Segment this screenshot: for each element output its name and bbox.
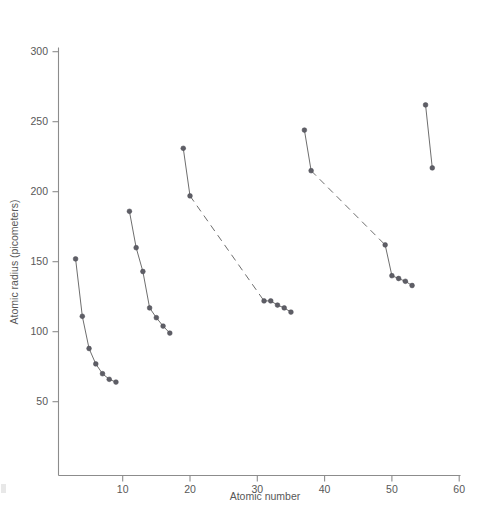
y-tick-label: 200 xyxy=(30,185,48,197)
data-point-marker xyxy=(423,103,428,108)
data-point-marker xyxy=(275,303,280,308)
series-group xyxy=(73,257,118,385)
data-point-marker xyxy=(93,362,98,367)
series-group xyxy=(423,103,435,171)
data-point-marker xyxy=(282,306,287,311)
data-point-marker xyxy=(87,346,92,351)
x-tick-label: 10 xyxy=(117,483,129,495)
y-axis-title: Atomic radius (picometers) xyxy=(8,200,20,325)
series-segment xyxy=(136,248,143,272)
data-point-marker xyxy=(262,299,267,304)
data-point-marker xyxy=(167,331,172,336)
data-point-marker xyxy=(100,371,105,376)
data-point-marker xyxy=(383,243,388,248)
data-series-layer xyxy=(73,103,434,385)
x-tick-label: 20 xyxy=(184,483,196,495)
data-point-marker xyxy=(396,276,401,281)
data-point-marker xyxy=(154,315,159,320)
data-point-marker xyxy=(309,168,314,173)
y-tick-label: 150 xyxy=(30,255,48,267)
series-group xyxy=(302,128,414,288)
series-segment xyxy=(426,105,433,168)
page-edge-artifact xyxy=(1,484,6,493)
atomic-radius-chart: 50100150200250300 102030405060 Atomic nu… xyxy=(0,0,479,517)
data-point-marker xyxy=(127,209,132,214)
x-tick-label: 60 xyxy=(453,483,465,495)
y-tick-label: 100 xyxy=(30,325,48,337)
series-segment xyxy=(143,272,150,308)
data-point-marker xyxy=(410,283,415,288)
series-segment xyxy=(76,259,83,316)
y-tick-label: 300 xyxy=(30,45,48,57)
data-point-marker xyxy=(302,128,307,133)
series-segment xyxy=(304,130,311,171)
data-point-marker xyxy=(289,310,294,315)
data-point-marker xyxy=(161,324,166,329)
data-point-marker xyxy=(268,299,273,304)
series-group xyxy=(127,209,172,336)
x-tick-label: 40 xyxy=(319,483,331,495)
data-point-marker xyxy=(403,279,408,284)
series-segment xyxy=(183,148,190,196)
x-tick-label: 50 xyxy=(386,483,398,495)
series-segment xyxy=(385,245,392,276)
axes-group xyxy=(59,48,461,476)
series-dashed-segment xyxy=(311,171,385,245)
chart-svg: 50100150200250300 102030405060 Atomic nu… xyxy=(0,0,479,517)
data-point-marker xyxy=(430,166,435,171)
series-segment xyxy=(129,211,136,247)
data-point-marker xyxy=(140,269,145,274)
data-point-marker xyxy=(181,146,186,151)
data-point-marker xyxy=(147,306,152,311)
data-point-marker xyxy=(114,380,119,385)
series-segment xyxy=(82,316,89,348)
data-point-marker xyxy=(80,314,85,319)
y-tick-label: 250 xyxy=(30,115,48,127)
y-tick-label: 50 xyxy=(36,395,48,407)
data-point-marker xyxy=(188,194,193,199)
data-point-marker xyxy=(390,273,395,278)
series-dashed-segment xyxy=(190,196,264,301)
series-group xyxy=(181,146,293,315)
data-point-marker xyxy=(73,257,78,262)
x-axis-title: Atomic number xyxy=(230,490,301,502)
data-point-marker xyxy=(107,377,112,382)
y-axis-ticks: 50100150200250300 xyxy=(30,45,58,407)
data-point-marker xyxy=(134,245,139,250)
